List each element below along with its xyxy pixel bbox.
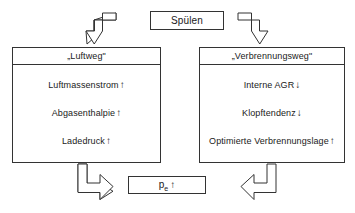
luftweg-item-2-text: Abgasenthalpie [52, 108, 115, 118]
arrow-spuelen-to-verbrennungsweg [238, 13, 268, 44]
node-pe-result: pe↑ [128, 176, 206, 194]
verbrennungsweg-item-2-text: Klopftendenz [242, 108, 296, 118]
luftweg-item-2-trend-icon: ↑ [115, 107, 121, 118]
luftweg-item-2: Abgasenthalpie↑ [52, 107, 122, 118]
node-luftweg: „Luftweg" Luftmassenstrom↑ Abgasenthalpi… [12, 47, 161, 163]
node-verbrennungsweg: „Verbrennungsweg" Interne AGR↓ Klopftend… [199, 47, 345, 163]
arrow-verbrennungsweg-to-pe [241, 164, 276, 200]
luftweg-item-1: Luftmassenstrom↑ [48, 79, 125, 90]
verbrennungsweg-item-3-text: Optimierte Verbrennungslage [209, 136, 329, 146]
node-spuelen: Spülen [150, 11, 224, 30]
verbrennungsweg-item-2-trend-icon: ↓ [296, 107, 302, 118]
luftweg-header-label: „Luftweg" [67, 51, 106, 61]
spuelen-label: Spülen [171, 15, 203, 26]
luftweg-item-1-text: Luftmassenstrom [48, 80, 119, 90]
luftweg-item-3: Ladedruck↑ [62, 135, 111, 146]
pe-label: pe↑ [159, 179, 175, 192]
verbrennungsweg-item-3: Optimierte Verbrennungslage↑ [209, 135, 335, 146]
verbrennungsweg-item-1-text: Interne AGR [244, 80, 295, 90]
pe-trend-icon: ↑ [168, 179, 175, 190]
verbrennungsweg-item-1: Interne AGR↓ [244, 79, 301, 90]
figure-caption-fragment [2, 205, 353, 213]
luftweg-header: „Luftweg" [13, 48, 160, 65]
flow-diagram: Spülen „Luftweg" Luftmassenstrom↑ Abgase… [0, 0, 355, 213]
verbrennungsweg-header-label: „Verbrennungsweg" [232, 51, 312, 61]
verbrennungsweg-header: „Verbrennungsweg" [200, 48, 344, 65]
verbrennungsweg-body: Interne AGR↓ Klopftendenz↓ Optimierte Ve… [200, 65, 344, 162]
luftweg-body: Luftmassenstrom↑ Abgasenthalpie↑ Ladedru… [13, 65, 160, 162]
verbrennungsweg-item-1-trend-icon: ↓ [294, 79, 300, 90]
luftweg-item-3-trend-icon: ↑ [105, 135, 111, 146]
luftweg-item-3-text: Ladedruck [62, 136, 105, 146]
verbrennungsweg-item-3-trend-icon: ↑ [329, 135, 335, 146]
luftweg-item-1-trend-icon: ↑ [119, 79, 125, 90]
verbrennungsweg-item-2: Klopftendenz↓ [242, 107, 302, 118]
